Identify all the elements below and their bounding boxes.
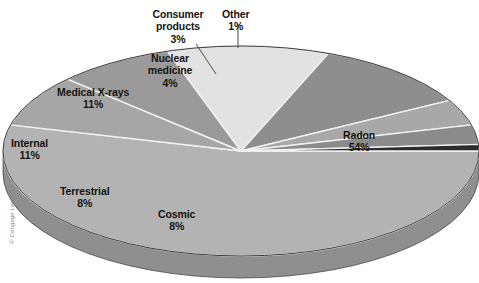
slice-label-consumer-products: Consumer products3% <box>148 8 208 45</box>
slice-label-medical-x-rays: Medical X-rays11% <box>57 86 129 111</box>
slice-label-internal: Internal11% <box>11 137 48 162</box>
slice-label-percent: 4% <box>142 77 198 89</box>
slice-label-name: Cosmic <box>158 208 195 220</box>
slice-label-other: Other1% <box>222 8 250 33</box>
copyright-credit: © Cengage Learning <box>9 179 15 251</box>
pie-top-slices <box>3 46 479 256</box>
slice-label-name: Internal <box>11 137 48 149</box>
slice-label-percent: 11% <box>57 98 129 110</box>
slice-label-name: Nuclear medicine <box>148 52 193 76</box>
slice-label-nuclear-medicine: Nuclear medicine4% <box>142 52 198 89</box>
pie-chart-figure: Radon54%Cosmic8%Terrestrial8%Internal11%… <box>0 0 479 283</box>
slice-label-name: Medical X-rays <box>57 86 129 98</box>
slice-label-name: Other <box>222 8 250 20</box>
slice-label-percent: 3% <box>148 33 208 45</box>
slice-label-cosmic: Cosmic8% <box>158 208 195 233</box>
slice-label-percent: 54% <box>343 141 375 153</box>
slice-label-name: Terrestrial <box>60 185 109 197</box>
slice-label-name: Consumer products <box>152 8 203 32</box>
slice-label-radon: Radon54% <box>343 129 375 154</box>
slice-label-terrestrial: Terrestrial8% <box>60 185 109 210</box>
slice-label-percent: 8% <box>60 197 109 209</box>
slice-label-percent: 11% <box>11 149 48 161</box>
slice-label-percent: 8% <box>158 220 195 232</box>
slice-label-percent: 1% <box>222 20 250 32</box>
slice-label-name: Radon <box>343 129 375 141</box>
pie-chart-canvas <box>0 0 479 283</box>
